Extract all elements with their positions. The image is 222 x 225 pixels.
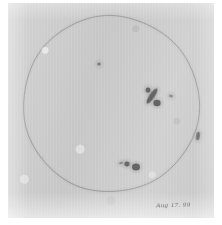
solar-limb (24, 15, 200, 191)
drawing-paper: Aug 17. 99 (8, 3, 214, 218)
sunspot-halos (95, 60, 203, 173)
sunspot-drawing (8, 3, 214, 218)
scan-sheet: Aug 17. 99 (0, 0, 222, 225)
sunspot-marks (97, 62, 200, 170)
